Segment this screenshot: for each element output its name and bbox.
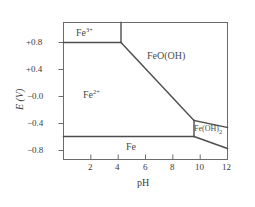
x-tick-label-3: 8 <box>170 162 175 172</box>
region-label-fe3: Fe3+ <box>76 26 93 38</box>
y-tick-label-1: +0.4 <box>26 64 42 74</box>
region-label-fe3-charge: 3+ <box>86 26 93 33</box>
x-tick-label-2: 6 <box>143 162 148 172</box>
y-tick-label-4: −0.8 <box>27 145 43 155</box>
region-label-fe3-base: Fe <box>76 27 86 38</box>
boundary-fe-feoh2-lower <box>194 137 228 149</box>
pourbaix-diagram-figure: +0.8 +0.4 −0.0 −0.4 −0.8 E (V) 2 4 6 8 1… <box>0 0 255 207</box>
region-label-feoh2-count: 2 <box>219 128 222 135</box>
y-tick-label-0: +0.8 <box>26 37 42 47</box>
x-tick-label-1: 4 <box>115 162 120 172</box>
x-tick-label-4: 10 <box>195 162 204 172</box>
pourbaix-diagram-plot <box>0 0 255 207</box>
y-tick-label-3: −0.4 <box>27 118 43 128</box>
region-label-feoh2: Fe(OH)2 <box>194 124 222 135</box>
region-label-fe-metal: Fe <box>126 141 136 152</box>
x-tick-label-0: 2 <box>88 162 93 172</box>
region-label-feoh2-base: Fe(OH) <box>194 124 219 133</box>
x-axis-ticks <box>91 155 228 160</box>
region-label-fe2: Fe2+ <box>83 88 100 100</box>
y-axis-ticks <box>59 43 64 151</box>
region-label-feooh: FeO(OH) <box>147 50 185 61</box>
x-axis-title: pH <box>137 177 149 188</box>
region-label-fe2-charge: 2+ <box>93 88 100 95</box>
x-tick-label-5: 12 <box>222 162 231 172</box>
y-tick-label-2: −0.0 <box>27 91 43 101</box>
y-axis-title: E (V) <box>14 89 25 110</box>
region-label-fe2-base: Fe <box>83 89 93 100</box>
